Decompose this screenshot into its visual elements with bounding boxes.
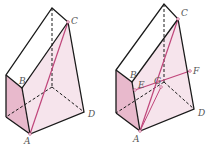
point-A <box>139 130 142 133</box>
point-E <box>134 89 137 92</box>
label-F: F <box>192 66 200 76</box>
diagram-canvas: C B A D C B E G F A D <box>0 0 209 147</box>
label-C: C <box>71 16 78 26</box>
point-C <box>177 18 180 21</box>
point-F <box>189 70 192 73</box>
label-A: A <box>132 134 140 144</box>
label-A: A <box>23 136 31 146</box>
label-D: D <box>87 109 95 119</box>
label-B: B <box>129 70 137 80</box>
point-C <box>67 21 70 24</box>
right-solid: C B E G F A D <box>116 4 205 144</box>
label-B: B <box>18 76 26 86</box>
label-C: C <box>181 8 188 18</box>
label-D: D <box>197 108 205 118</box>
label-G: G <box>154 76 161 86</box>
point-G <box>160 86 163 89</box>
point-A <box>29 133 32 136</box>
label-E: E <box>137 80 145 90</box>
left-solid: C B A D <box>6 8 95 146</box>
